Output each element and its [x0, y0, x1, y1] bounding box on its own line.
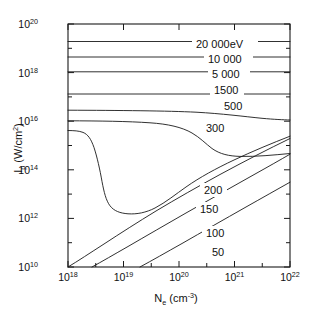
contour-plot-figure: 20 000eV 10 000 5 000 1500 500 300 200 1…	[0, 0, 315, 318]
contour-label-200: 200	[204, 184, 222, 196]
contour-label-10000: 10 000	[208, 53, 242, 65]
contour-label-20000ev: 20 000eV	[196, 38, 244, 50]
figure-background	[0, 0, 315, 318]
contour-label-500: 500	[224, 100, 242, 112]
contour-label-50: 50	[212, 246, 224, 258]
contour-label-300: 300	[206, 122, 224, 134]
contour-label-150: 150	[200, 203, 218, 215]
plot-svg: 20 000eV 10 000 5 000 1500 500 300 200 1…	[0, 0, 315, 318]
contour-label-1500: 1500	[214, 84, 238, 96]
contour-label-100: 100	[206, 227, 224, 239]
contour-label-5000: 5 000	[212, 68, 240, 80]
